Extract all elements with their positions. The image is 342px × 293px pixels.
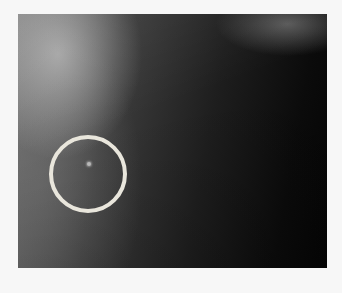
bright-spot xyxy=(87,162,91,166)
grayscale-photo xyxy=(18,14,327,268)
annotation-circle xyxy=(49,135,127,213)
